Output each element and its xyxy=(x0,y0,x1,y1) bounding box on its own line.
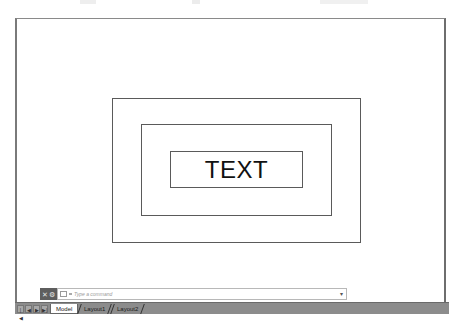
tab-layout1-label: Layout1 xyxy=(84,304,105,314)
command-line-grip[interactable]: ✕ ⚙ xyxy=(40,288,57,300)
command-prompt-icon xyxy=(60,291,67,297)
drawing-text-label[interactable]: TEXT xyxy=(205,158,268,182)
wrench-icon[interactable]: ⚙ xyxy=(49,291,55,298)
tab-model[interactable]: Model xyxy=(50,304,78,314)
previous-tab-icon[interactable]: ◀ xyxy=(25,305,32,313)
autocad-window: TEXT ✕ ⚙ Type a command ▾ |◀ ◀ ▶ ▶| Mode… xyxy=(0,0,460,328)
command-input[interactable]: Type a command ▾ xyxy=(57,288,347,300)
first-tab-icon[interactable]: |◀ xyxy=(17,305,24,313)
tab-layout1[interactable]: Layout1 xyxy=(78,304,113,314)
text-frame-rectangle[interactable]: TEXT xyxy=(170,151,303,188)
layout-tab-bar: |◀ ◀ ▶ ▶| Model Layout1 Layout2 xyxy=(15,302,449,314)
tab-layout2-label: Layout2 xyxy=(117,304,138,314)
tab-navigation: |◀ ◀ ▶ ▶| xyxy=(15,303,49,314)
tab-layout2[interactable]: Layout2 xyxy=(110,304,145,314)
chevron-down-icon[interactable]: ▾ xyxy=(340,290,343,299)
cut-off-header xyxy=(40,0,440,4)
close-icon[interactable]: ✕ xyxy=(42,291,48,298)
next-tab-icon[interactable]: ▶ xyxy=(33,305,40,313)
command-line: ✕ ⚙ Type a command ▾ xyxy=(40,288,347,300)
command-placeholder: Type a command xyxy=(74,291,112,297)
last-tab-icon[interactable]: ▶| xyxy=(41,305,48,313)
drawing-viewport[interactable]: TEXT xyxy=(15,18,446,302)
